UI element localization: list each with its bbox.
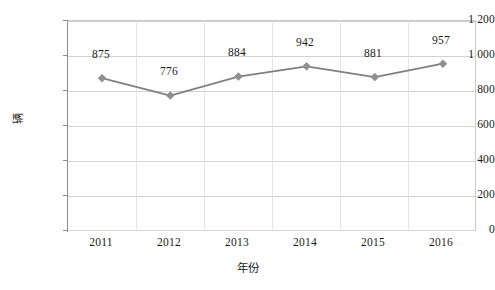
x-tick-label-2012: 2012 (134, 236, 204, 248)
y-tick-label-1200: 1 200 (433, 14, 495, 26)
x-tick-label-2011: 2011 (66, 236, 136, 248)
x-axis-title: 年份 (0, 262, 495, 275)
y-tick-mark (63, 20, 67, 21)
data-label-2011: 875 (75, 48, 127, 60)
data-label-2014: 942 (279, 36, 331, 48)
data-label-2012: 776 (143, 65, 195, 77)
data-point-marker-2013 (234, 73, 242, 81)
data-point-marker-2014 (303, 62, 311, 70)
y-tick-mark (63, 55, 67, 56)
plot-area (67, 20, 476, 231)
data-label-2016: 957 (415, 34, 467, 46)
x-tick-label-2013: 2013 (202, 236, 272, 248)
y-tick-label-400: 400 (433, 154, 495, 166)
data-point-marker-2012 (166, 92, 174, 100)
y-tick-mark (63, 160, 67, 161)
data-point-marker-2015 (371, 73, 379, 81)
y-tick-mark (63, 90, 67, 91)
x-tick-label-2016: 2016 (406, 236, 476, 248)
x-tick-label-2015: 2015 (338, 236, 408, 248)
y-tick-label-600: 600 (433, 119, 495, 131)
y-tick-label-800: 800 (433, 84, 495, 96)
y-tick-mark (63, 230, 67, 231)
x-tick-label-2014: 2014 (270, 236, 340, 248)
y-tick-mark (63, 125, 67, 126)
data-point-marker-2011 (98, 74, 106, 82)
data-label-2015: 881 (347, 47, 399, 59)
y-axis-line (67, 20, 68, 232)
y-tick-label-1000: 1 000 (433, 49, 495, 61)
y-tick-mark (63, 195, 67, 196)
series-line (68, 21, 477, 232)
line-chart: 1 200 1 000 800 600 400 200 0 辆 2011 201… (0, 0, 495, 290)
data-label-2013: 884 (211, 46, 263, 58)
y-axis-title: 辆 (12, 108, 24, 128)
y-tick-label-200: 200 (433, 189, 495, 201)
y-tick-label-0: 0 (433, 224, 495, 236)
data-point-marker-2016 (439, 60, 447, 68)
